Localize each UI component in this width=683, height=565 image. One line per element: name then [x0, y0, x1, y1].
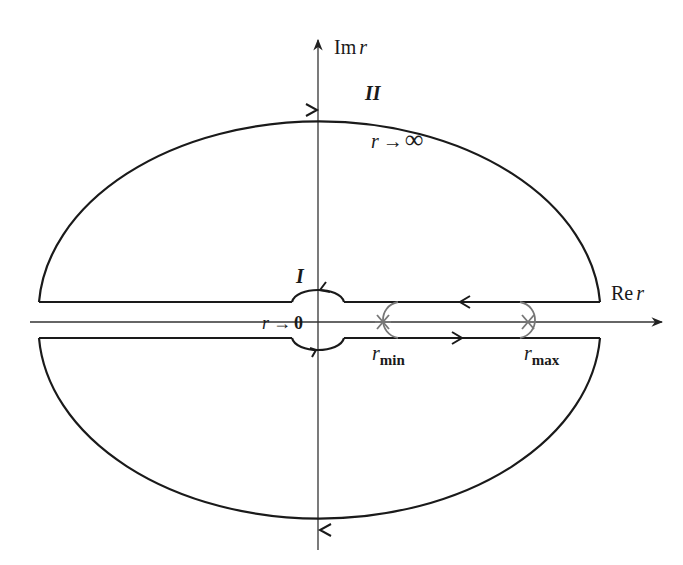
contour-diagram: Imr Rer II I r→∞ r→0 rmin rmax	[0, 0, 683, 565]
rmax-label: rmax	[524, 342, 560, 368]
contour-label-ii: II	[364, 82, 382, 104]
turning-point-contour	[375, 302, 536, 338]
infinity-limit-label: r→∞	[371, 125, 423, 154]
outer-contour-ii	[39, 121, 600, 518]
outer-contour-lower	[39, 338, 600, 519]
zero-limit-label: r→0	[262, 313, 303, 333]
arrow-bottom-left-icon	[320, 524, 331, 536]
direction-arrows	[306, 104, 470, 536]
axes	[30, 40, 662, 550]
arrow-inner-lower-icon	[310, 348, 316, 357]
rmin-label: rmin	[372, 342, 405, 368]
arrow-top-right-icon	[306, 104, 317, 116]
imag-axis-label: Imr	[334, 36, 367, 58]
outer-contour-upper	[39, 121, 600, 302]
real-axis-label: Rer	[611, 282, 644, 304]
contour-label-i: I	[295, 265, 305, 287]
rmax-loop	[520, 302, 535, 338]
labels: Imr Rer II I r→∞ r→0 rmin rmax	[262, 36, 644, 368]
